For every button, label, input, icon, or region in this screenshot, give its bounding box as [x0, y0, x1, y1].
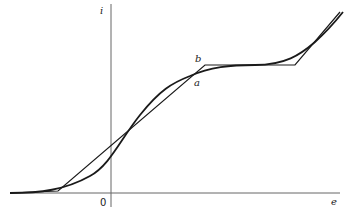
origin-label: 0: [100, 197, 106, 208]
curve-a-label: a: [194, 77, 200, 88]
curve-a: [10, 12, 343, 193]
horizontal-axis-label: e: [331, 196, 337, 207]
vertical-axis-label: i: [100, 5, 103, 16]
curve-b-label: b: [195, 53, 201, 64]
curve-b: [10, 12, 340, 193]
diagram-canvas: i e 0 b a: [0, 0, 351, 214]
